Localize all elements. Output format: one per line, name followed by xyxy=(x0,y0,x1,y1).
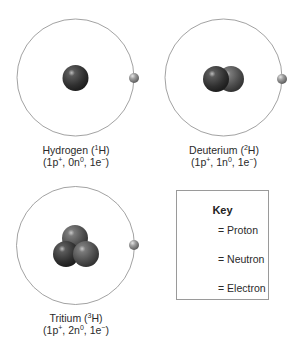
neutron-count: 0n xyxy=(68,156,80,168)
electron-count: 1e xyxy=(90,156,102,168)
deuterium-electron-icon xyxy=(277,74,287,84)
key-title: Key xyxy=(177,204,268,216)
hydrogen-name-line: Hydrogen (1H) xyxy=(15,144,137,156)
proton-count: 1p xyxy=(47,324,59,336)
electron-sign: − xyxy=(101,324,105,331)
key-label-proton: = Proton xyxy=(218,224,258,236)
electron-count: 1e xyxy=(238,156,250,168)
atom-name: Tritium xyxy=(49,312,81,324)
tritium-composition-line: (1p+, 2n0, 1e−) xyxy=(15,324,137,336)
proton-sign: + xyxy=(206,156,210,163)
electron-count: 1e xyxy=(90,324,102,336)
neutron-sign: 0 xyxy=(80,156,84,163)
hydrogen-proton-icon xyxy=(63,65,89,91)
hydrogen-composition-line: (1p+, 0n0, 1e−) xyxy=(15,156,137,168)
element-symbol: H xyxy=(98,144,106,156)
tritium-name-line: Tritium (3H) xyxy=(15,312,137,324)
key-label-electron: = Electron xyxy=(218,282,266,294)
tritium-label: Tritium (3H) (1p+, 2n0, 1e−) xyxy=(15,312,137,336)
proton-count: 1p xyxy=(47,156,59,168)
key-legend: Key = Proton = Neutron = Electron xyxy=(176,190,269,300)
tritium-neutron-icon xyxy=(73,241,99,267)
neutron-sign: 0 xyxy=(228,156,232,163)
atom-name: Hydrogen xyxy=(43,144,89,156)
electron-sign: − xyxy=(249,156,253,163)
neutron-count: 1n xyxy=(216,156,228,168)
deuterium-label: Deuterium (2H) (1p+, 1n0, 1e−) xyxy=(163,144,285,168)
tritium-atom xyxy=(17,187,140,305)
proton-count: 1p xyxy=(195,156,207,168)
proton-sign: + xyxy=(58,324,62,331)
hydrogen-electron-icon xyxy=(129,73,139,83)
element-symbol: H xyxy=(248,144,256,156)
deuterium-proton-icon xyxy=(203,66,229,92)
deuterium-name-line: Deuterium (2H) xyxy=(163,144,285,156)
neutron-count: 2n xyxy=(68,324,80,336)
atom-name: Deuterium xyxy=(189,144,237,156)
element-symbol: H xyxy=(91,312,99,324)
hydrogen-atom xyxy=(17,19,139,136)
hydrogen-label: Hydrogen (1H) (1p+, 0n0, 1e−) xyxy=(15,144,137,168)
key-label-neutron: = Neutron xyxy=(218,253,264,265)
neutron-sign: 0 xyxy=(80,324,84,331)
tritium-electron-icon xyxy=(129,240,139,250)
deuterium-composition-line: (1p+, 1n0, 1e−) xyxy=(163,156,285,168)
proton-sign: + xyxy=(58,156,62,163)
deuterium-atom xyxy=(165,19,287,136)
electron-sign: − xyxy=(101,156,105,163)
